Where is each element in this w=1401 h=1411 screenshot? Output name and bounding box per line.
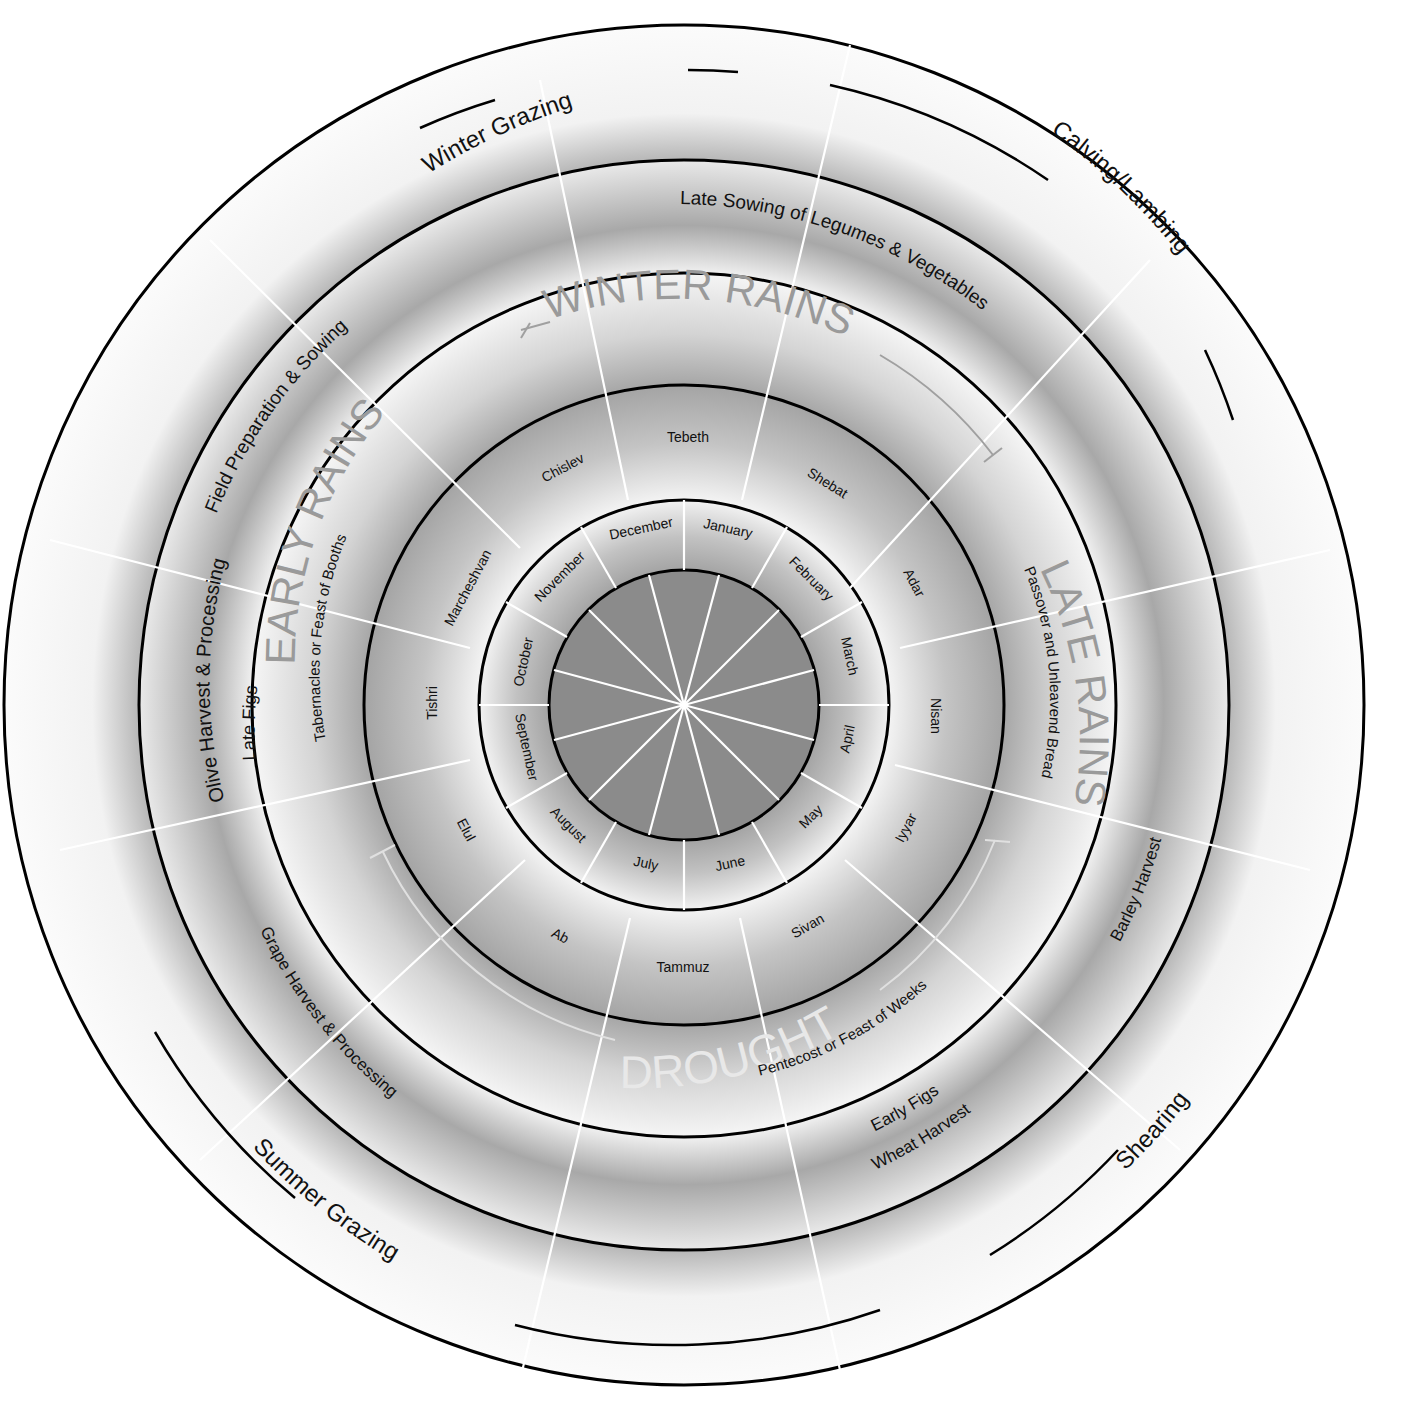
hebrew-month: Tebeth	[667, 429, 709, 445]
label-late-figs: Late Figs	[239, 685, 262, 761]
hebrew-month: Tammuz	[657, 959, 710, 975]
agricultural-calendar-wheel: Winter Grazing Calving/Lambing Shearing …	[0, 0, 1401, 1411]
hebrew-month: Tishri	[424, 686, 440, 720]
hebrew-month: Nisan	[928, 698, 944, 734]
